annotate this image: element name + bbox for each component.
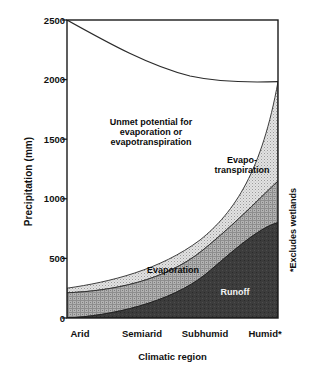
y-tick-label-1000: 1000 bbox=[19, 194, 65, 204]
y-axis-title: Precipitation (mm) bbox=[23, 92, 34, 272]
area-label-unmet-potential: Unmet potential for evaporation or evapo… bbox=[86, 117, 216, 147]
area-label-evapotranspiration: Evapo- transpiration bbox=[206, 155, 278, 175]
precipitation-climatic-region-chart: Precipitation (mm) 0 500 1000 1500 2000 … bbox=[0, 0, 315, 374]
x-tick-label-humid: Humid* bbox=[248, 328, 281, 339]
area-label-evaporation: Evaporation bbox=[128, 265, 218, 275]
y-tick-label-0: 0 bbox=[19, 314, 65, 324]
y-tick-label-1500: 1500 bbox=[19, 135, 65, 145]
y-axis-ticks bbox=[62, 20, 67, 318]
x-axis-title: Climatic region bbox=[67, 351, 278, 362]
y-tick-label-500: 500 bbox=[19, 254, 65, 264]
footnote-excludes-wetlands: *Excludes wetlands bbox=[288, 165, 298, 295]
area-label-runoff: Runoff bbox=[205, 287, 265, 297]
x-tick-label-semiarid: Semiarid bbox=[122, 328, 162, 339]
x-tick-label-subhumid: Subhumid bbox=[182, 328, 228, 339]
y-tick-label-2000: 2000 bbox=[19, 75, 65, 85]
x-tick-label-arid: Arid bbox=[71, 328, 90, 339]
y-tick-label-2500: 2500 bbox=[19, 16, 65, 26]
